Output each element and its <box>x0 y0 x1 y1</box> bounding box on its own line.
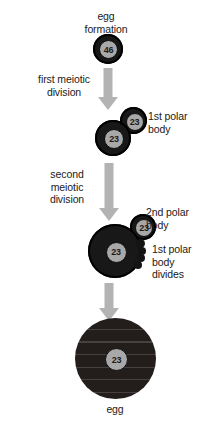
egg-formation-label: egg formation <box>72 10 140 35</box>
secondary-oocyte-cell: 23 <box>95 120 131 156</box>
first-polar-body-label: 1st polar body <box>148 110 210 135</box>
oogenesis-diagram: egg formation 46 first meiotic division … <box>0 0 212 429</box>
mature-egg-cell: 23 <box>75 318 156 399</box>
second-polar-body-label: 2nd polar body <box>146 206 210 231</box>
arrow-head <box>98 97 118 110</box>
second-meiotic-division-label: second meiotic division <box>28 168 106 206</box>
first-meiotic-division-label: first meiotic division <box>18 73 110 98</box>
mature-egg-nucleus: 23 <box>105 348 128 371</box>
maturation-arrow <box>99 283 119 321</box>
egg-label: egg <box>85 403 145 416</box>
arrow-head <box>99 208 119 221</box>
ootid-nucleus: 23 <box>106 242 127 263</box>
ootid-cell: 23 <box>88 224 142 278</box>
secondary-oocyte-nucleus: 23 <box>104 129 124 149</box>
first-polar-body-divides-label: 1st polar body divides <box>152 243 212 281</box>
primary-oocyte-cell: 46 <box>93 34 123 64</box>
dividing-polar-body-dot <box>134 261 142 269</box>
primary-oocyte-nucleus: 46 <box>99 40 118 59</box>
arrow-shaft <box>105 283 114 309</box>
